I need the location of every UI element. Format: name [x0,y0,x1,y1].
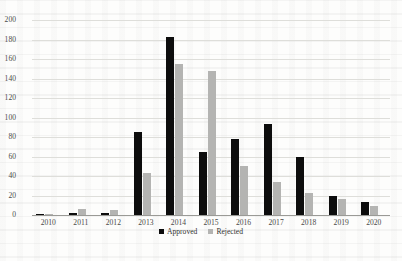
y-axis-tick-label: 0 [0,211,16,219]
y-axis-tick-label: 160 [0,55,16,63]
bar-group [227,20,260,215]
bar-approved-2018 [296,157,304,216]
bar-rejected-2013 [143,173,151,215]
bar-rejected-2017 [273,182,281,215]
bar-group [32,20,65,215]
bar-chart: 020406080100120140160180200 201020112012… [0,0,402,261]
y-axis-tick-label: 200 [0,16,16,24]
y-axis-tick-label: 100 [0,114,16,122]
plot-area: 020406080100120140160180200 201020112012… [32,20,390,215]
bar-rejected-2019 [338,199,346,215]
bar-approved-2016 [231,139,239,215]
bar-approved-2011 [69,213,77,215]
y-axis-tick-label: 80 [0,133,16,141]
bar-group [260,20,293,215]
bar-rejected-2014 [175,64,183,215]
bar-approved-2014 [166,37,174,215]
y-axis-tick-label: 20 [0,192,16,200]
bar-rejected-2016 [240,166,248,215]
legend-label: Approved [167,228,197,236]
black-square-marker [159,229,164,234]
bar-group [292,20,325,215]
y-axis-tick-label: 180 [0,36,16,44]
bar-approved-2013 [134,132,142,215]
bar-rejected-2018 [305,193,313,215]
bar-group [65,20,98,215]
legend-entry-rejected: Rejected [208,228,243,236]
bar-group [325,20,358,215]
bar-rejected-2011 [78,209,86,215]
bar-group [162,20,195,215]
y-axis-tick-label: 140 [0,75,16,83]
legend-label: Rejected [216,228,243,236]
bar-rejected-2010 [45,214,53,215]
bar-rejected-2020 [370,206,378,215]
bar-approved-2020 [361,202,369,215]
bar-group [357,20,390,215]
bar-approved-2015 [199,152,207,215]
bar-approved-2010 [36,214,44,215]
bar-rejected-2015 [208,71,216,215]
chart-legend: ApprovedRejected [0,228,402,236]
bar-group [195,20,228,215]
bar-series-container [32,20,390,215]
bar-approved-2017 [264,124,272,215]
y-axis-tick-label: 120 [0,94,16,102]
y-axis-tick-label: 60 [0,153,16,161]
bar-approved-2019 [329,196,337,215]
legend-entry-approved: Approved [159,228,197,236]
x-axis-tick-label: 2020 [354,219,394,227]
x-axis-line [32,215,390,216]
gray-square-marker [208,229,213,234]
y-axis-tick-label: 40 [0,172,16,180]
bar-approved-2012 [101,213,109,215]
bar-group [130,20,163,215]
bar-group [97,20,130,215]
bar-rejected-2012 [110,210,118,215]
